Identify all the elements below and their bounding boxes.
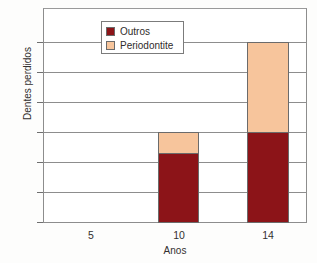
legend-item-outros: Outros (106, 25, 183, 38)
x-tick-label-10: 10 (157, 229, 201, 241)
plot-area: Outros Periodontite (43, 8, 307, 223)
bar-segment-14-periodontite (247, 42, 289, 133)
x-tick-label-5: 5 (69, 229, 113, 241)
legend-swatch-periodontite (106, 41, 115, 50)
bar-segment-10-outros (158, 153, 199, 223)
x-tick-label-14: 14 (246, 229, 290, 241)
chart-figure: Dentes perdidos 30 20 10 0 Outros (0, 0, 317, 263)
legend-swatch-outros (106, 27, 115, 36)
chart-legend: Outros Periodontite (101, 21, 184, 54)
bar-segment-14-outros (247, 132, 289, 223)
legend-label-outros: Outros (120, 27, 150, 37)
chart-title (60, 0, 260, 3)
y-axis-title: Dentes perdidos (22, 24, 33, 144)
bar-segment-10-periodontite (158, 132, 199, 154)
legend-item-periodontite: Periodontite (106, 39, 183, 52)
x-axis-title: Anos (43, 245, 307, 256)
legend-label-periodontite: Periodontite (120, 41, 173, 51)
